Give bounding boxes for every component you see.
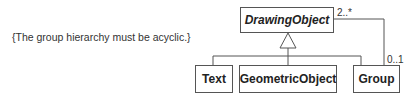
constraint-note: {The group hierarchy must be acyclic.}	[12, 31, 191, 43]
generalization-triangle-icon	[280, 33, 296, 48]
class-text: Text	[195, 65, 233, 93]
class-group: Group	[353, 65, 400, 93]
multiplicity-group: 0..1	[387, 54, 404, 65]
multiplicity-drawing-object: 2..*	[337, 7, 352, 18]
class-geometric-object: GeometricObject	[239, 65, 337, 93]
class-drawing-object: DrawingObject	[240, 7, 334, 33]
association-line	[333, 19, 384, 65]
